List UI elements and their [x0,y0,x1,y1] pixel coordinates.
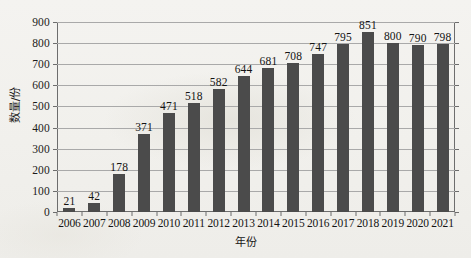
x-axis-tick-label: 2007 [83,217,106,229]
y-axis-tick-mark [53,128,57,129]
y-axis-tick-label: 0 [44,206,50,218]
bar: 518 [188,103,200,212]
y-axis-tick-mark [455,22,459,23]
x-axis-tick-mark [106,212,107,216]
bar: 644 [238,76,250,212]
x-axis-tick-label: 2011 [183,217,205,229]
y-axis-tick-mark [53,170,57,171]
x-axis-tick-label: 2012 [207,217,230,229]
bar: 582 [213,89,225,212]
x-axis-tick-mark [206,212,207,216]
bar-value-label: 790 [409,32,427,44]
bar-value-label: 371 [135,121,153,133]
bar: 795 [337,44,349,212]
x-axis-tick-mark [280,212,281,216]
bar: 471 [163,113,175,212]
y-axis-tick-mark [53,149,57,150]
bar: 178 [113,174,125,212]
y-axis-tick-mark [53,64,57,65]
bar: 371 [138,134,150,212]
x-axis-tick-mark [231,212,232,216]
y-axis-tick-mark [455,212,459,213]
y-axis-title: 数量/份 [6,87,22,124]
x-axis-tick-mark [455,212,456,216]
y-axis-tick-mark [455,170,459,171]
bar-value-label: 800 [384,30,402,42]
bar-value-label: 471 [160,100,178,112]
x-axis-tick-mark [330,212,331,216]
x-axis-tick-label: 2016 [307,217,330,229]
x-axis-tick-label: 2019 [382,217,405,229]
x-axis-tick-label: 2018 [357,217,380,229]
y-axis-tick-label: 500 [32,100,50,112]
bar: 790 [412,45,424,212]
y-axis-tick-mark [53,191,57,192]
x-axis-tick-label: 2006 [58,217,81,229]
bar-chart: 0100200300400500600700800900 21421783714… [0,0,471,258]
y-axis-tick-label: 900 [32,16,50,28]
x-axis-tick-mark [57,212,58,216]
y-axis-tick-mark [455,85,459,86]
y-axis-tick-mark [53,85,57,86]
y-axis-tick-mark [53,22,57,23]
x-axis-tick-label: 2017 [332,217,355,229]
x-axis-tick-mark [156,212,157,216]
bar: 798 [437,44,449,212]
x-axis-tick-label: 2014 [257,217,280,229]
x-axis-tick-mark [131,212,132,216]
bar-value-label: 747 [309,41,327,53]
y-axis-tick-label: 300 [32,143,50,155]
y-axis-tick-mark [53,106,57,107]
x-axis-title: 年份 [235,233,257,249]
y-axis-tick-label: 100 [32,185,50,197]
gridline [57,22,455,23]
x-axis-tick-label: 2009 [133,217,156,229]
bar-value-label: 644 [235,63,253,75]
bar: 747 [312,54,324,212]
y-axis-tick-mark [53,43,57,44]
bar-value-label: 681 [260,55,278,67]
x-axis-tick-mark [256,212,257,216]
bar: 708 [287,63,299,212]
bar-value-label: 851 [359,19,377,31]
x-axis-tick-label: 2020 [406,217,429,229]
x-axis-tick-mark [430,212,431,216]
x-axis-tick-mark [181,212,182,216]
x-axis-tick-mark [355,212,356,216]
bar: 42 [88,203,100,212]
bar-value-label: 42 [88,190,100,202]
x-axis-tick-mark [405,212,406,216]
x-axis-tick-mark [380,212,381,216]
y-axis-tick-label: 600 [32,79,50,91]
bar: 800 [387,43,399,212]
y-axis-tick-label: 400 [32,122,50,134]
x-axis-tick-label: 2010 [158,217,181,229]
bar-value-label: 582 [210,76,228,88]
bar: 21 [63,208,75,212]
y-axis-tick-label: 800 [32,37,50,49]
plot-area: 0100200300400500600700800900 21421783714… [57,22,455,212]
y-axis-tick-label: 700 [32,58,50,70]
x-axis-tick-label: 2015 [282,217,305,229]
x-axis-tick-label: 2013 [232,217,255,229]
bar-value-label: 21 [63,195,75,207]
y-axis-tick-mark [455,43,459,44]
x-axis-tick-label: 2021 [431,217,454,229]
bar-value-label: 798 [434,31,452,43]
x-axis-tick-label: 2008 [108,217,131,229]
x-axis-tick-mark [305,212,306,216]
bar-value-label: 518 [185,90,203,102]
bar-value-label: 708 [284,50,302,62]
bar: 851 [362,32,374,212]
y-axis-tick-label: 200 [32,164,50,176]
y-axis-tick-mark [455,106,459,107]
y-axis-tick-mark [455,149,459,150]
bar-value-label: 795 [334,31,352,43]
bar-value-label: 178 [110,161,128,173]
y-axis-tick-mark [455,191,459,192]
x-axis-tick-mark [81,212,82,216]
bar: 681 [262,68,274,212]
y-axis-tick-mark [455,64,459,65]
y-axis-tick-mark [455,128,459,129]
